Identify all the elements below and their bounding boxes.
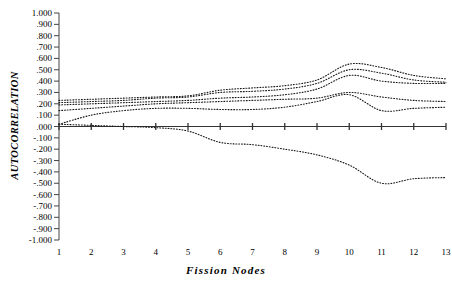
series-line-6 xyxy=(59,124,446,184)
series-line-5 xyxy=(59,94,446,124)
autocorrelation-chart: AUTOCORRELATION Fission Nodes 1.000.900.… xyxy=(0,0,452,288)
series-line-4 xyxy=(59,92,446,110)
plot-canvas xyxy=(0,0,452,288)
